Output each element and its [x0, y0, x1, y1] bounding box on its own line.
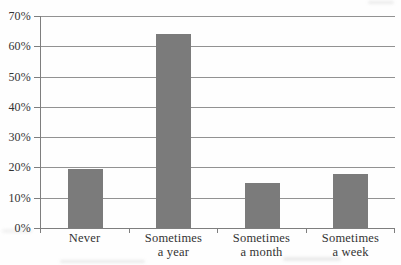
- bar-sometimes-a-year: [156, 34, 191, 228]
- y-axis-label-40: 40%: [0, 100, 31, 114]
- y-axis-tick-70: [34, 16, 40, 17]
- gridline-30: [41, 137, 395, 138]
- y-axis-tick-60: [34, 46, 40, 47]
- y-axis-tick-30: [34, 137, 40, 138]
- gridline-40: [41, 107, 395, 108]
- y-axis-label-20: 20%: [0, 160, 31, 174]
- bar-sometimes-a-week: [333, 174, 368, 228]
- bar-chart: 0%10%20%30%40%50%60%70%NeverSometimesa y…: [0, 0, 401, 265]
- gridline-70: [41, 16, 395, 17]
- x-axis-label-line: Sometimes: [129, 232, 218, 246]
- x-axis-label-line: Never: [40, 232, 129, 246]
- x-axis-label-line: a year: [129, 246, 218, 260]
- gridline-20: [41, 167, 395, 168]
- y-axis-tick-20: [34, 167, 40, 168]
- y-axis-label-30: 30%: [0, 130, 31, 144]
- y-axis-label-10: 10%: [0, 191, 31, 205]
- x-axis-label-line: Sometimes: [217, 232, 306, 246]
- x-axis-label-sometimes-a-year: Sometimesa year: [129, 232, 218, 259]
- y-axis-tick-10: [34, 198, 40, 199]
- y-axis-tick-50: [34, 77, 40, 78]
- y-axis-label-0: 0%: [0, 221, 31, 235]
- x-axis-label-line: Sometimes: [306, 232, 395, 246]
- x-axis-label-line: a month: [217, 246, 306, 260]
- y-axis-tick-40: [34, 107, 40, 108]
- y-axis-label-50: 50%: [0, 70, 31, 84]
- x-axis-label-sometimes-a-week: Sometimesa week: [306, 232, 395, 259]
- gridline-50: [41, 77, 395, 78]
- scan-artifact: [368, 1, 394, 4]
- bar-never: [68, 169, 103, 228]
- plot-area: [40, 16, 395, 229]
- gridline-60: [41, 46, 395, 47]
- bar-sometimes-a-month: [245, 183, 280, 228]
- y-axis-label-70: 70%: [0, 9, 31, 23]
- y-axis-label-60: 60%: [0, 39, 31, 53]
- x-axis-label-line: a week: [306, 246, 395, 260]
- scan-artifact: [60, 260, 145, 263]
- x-axis-label-sometimes-a-month: Sometimesa month: [217, 232, 306, 259]
- x-axis-label-never: Never: [40, 232, 129, 246]
